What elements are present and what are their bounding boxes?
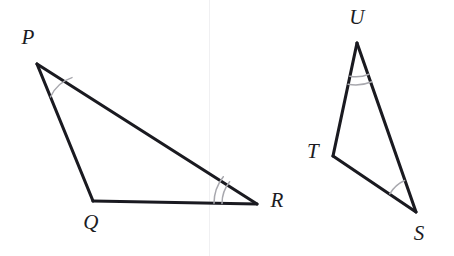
diagram-canvas: P Q R U T S [0, 0, 454, 256]
vertex-label-u: U [349, 5, 366, 29]
vertex-label-p: P [20, 25, 34, 49]
vertex-label-r: R [269, 188, 283, 212]
vertex-label-s: S [414, 221, 425, 245]
vertex-label-q: Q [83, 210, 98, 234]
geometry-figure: P Q R U T S [0, 0, 454, 256]
vertex-label-t: T [307, 139, 320, 163]
